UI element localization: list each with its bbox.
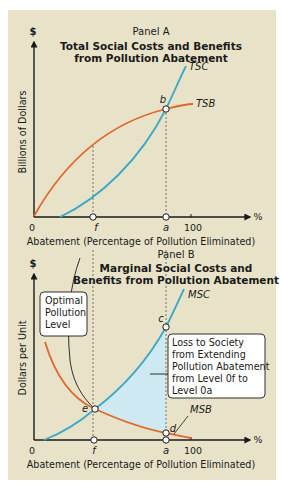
msb-label: MSB: [190, 404, 212, 415]
loss-line4: from Level 0f to: [172, 373, 248, 384]
panel-b-title-line1: Marginal Social Costs and: [100, 262, 253, 274]
loss-line3: Pollution Abatement: [172, 361, 270, 372]
panel-a-y-axis-label: Billions of Dollars: [17, 91, 28, 174]
panel-a-tick-a-label: a: [163, 222, 169, 233]
tsb-label: TSB: [196, 98, 215, 109]
point-c-label: c: [158, 313, 164, 324]
point-d-label: d: [170, 423, 177, 434]
panel-b-title-line2: Benefits from Pollution Abatement: [73, 274, 279, 286]
msc-label: MSC: [188, 289, 210, 300]
loss-line2: from Extending: [172, 349, 246, 360]
panel-b-label: Panel B: [157, 249, 194, 260]
optimal-line1: Optimal: [45, 295, 83, 306]
panel-b-y-axis-label: Dollars per Unit: [17, 320, 28, 395]
tsc-label: TSC: [189, 61, 208, 72]
panel-b-pct: %: [253, 434, 262, 445]
panel-a-x-axis-label: Abatement (Percentage of Pollution Elimi…: [27, 236, 255, 247]
panel-a-point-a: [163, 214, 169, 220]
panel-a-pct: %: [253, 211, 262, 222]
panel-a-tick-0-label: 0: [29, 222, 35, 233]
panel-a-point-f: [90, 214, 96, 220]
point-e-label: e: [82, 403, 88, 414]
panel-b-point-a: [163, 437, 169, 443]
point-e: [92, 406, 98, 412]
panel-b-point-f: [91, 437, 97, 443]
panel-b-dollar-sign: $: [30, 258, 37, 269]
point-b-label: b: [160, 94, 166, 105]
panel-b-tick-0-label: 0: [29, 445, 35, 456]
figure: $ Panel A Total Social Costs and Benefit…: [0, 0, 282, 487]
point-b: [163, 106, 169, 112]
optimal-line2: Pollution: [45, 307, 86, 318]
point-d: [163, 430, 169, 436]
panel-a-title-line1: Total Social Costs and Benefits: [60, 40, 242, 52]
panel-a-label: Panel A: [133, 26, 170, 37]
panel-b-x-axis-label: Abatement (Percentage of Pollution Elimi…: [27, 459, 255, 470]
loss-line1: Loss to Society: [172, 337, 244, 348]
optimal-line3: Level: [45, 319, 70, 330]
panel-b-tick-100-label: 100: [184, 445, 202, 456]
panel-a-dollar-sign: $: [30, 26, 37, 37]
point-c: [163, 324, 169, 330]
panel-b-tick-a-label: a: [163, 445, 169, 456]
panel-a-tick-100-label: 100: [184, 222, 202, 233]
loss-line5: Level 0a: [172, 385, 212, 396]
